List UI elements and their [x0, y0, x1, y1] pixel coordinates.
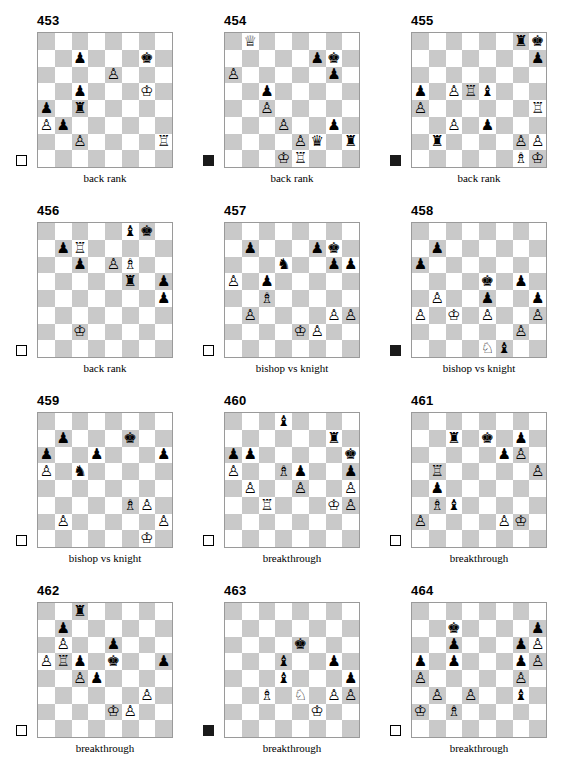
board-square — [72, 720, 89, 737]
board-square: ♟ — [309, 50, 326, 67]
board-square: ♟ — [412, 83, 429, 100]
board-square — [309, 603, 326, 620]
black-pawn-piece: ♟ — [72, 257, 89, 274]
board-square — [309, 514, 326, 531]
board-square — [105, 117, 122, 134]
board-square — [88, 50, 105, 67]
board-square — [155, 33, 172, 50]
board-square: ♟ — [242, 447, 259, 464]
board-square — [105, 603, 122, 620]
board-square: ♙ — [529, 653, 546, 670]
puzzle-theme-caption: bishop vs knight — [37, 552, 173, 565]
board-square — [326, 290, 343, 307]
board-square — [105, 514, 122, 531]
board-square: ♙ — [55, 514, 72, 531]
board-square — [155, 704, 172, 721]
board-square — [155, 670, 172, 687]
board-square — [342, 514, 359, 531]
board-square — [72, 620, 89, 637]
black-king-piece: ♚ — [326, 240, 343, 257]
board-square — [342, 223, 359, 240]
board-square — [55, 497, 72, 514]
board-square — [412, 33, 429, 50]
board-square — [446, 273, 463, 290]
board-square — [88, 514, 105, 531]
board-square — [55, 33, 72, 50]
board-square — [446, 530, 463, 547]
board-square: ♜ — [446, 430, 463, 447]
board-square — [155, 530, 172, 547]
board-square — [242, 637, 259, 654]
white-pawn-piece: ♙ — [105, 67, 122, 84]
board-square — [309, 670, 326, 687]
board-square: ♟ — [326, 257, 343, 274]
board-square — [309, 497, 326, 514]
board-square: ♟ — [55, 620, 72, 637]
board-square — [72, 637, 89, 654]
board-square — [292, 240, 309, 257]
board-square — [429, 720, 446, 737]
board-square — [429, 257, 446, 274]
board-square — [342, 430, 359, 447]
board-square: ♙ — [429, 687, 446, 704]
board-square: ♟ — [429, 240, 446, 257]
black-pawn-piece: ♟ — [513, 637, 530, 654]
board-square — [55, 704, 72, 721]
board-square: ♙ — [529, 637, 546, 654]
board-square — [275, 307, 292, 324]
board-square — [242, 150, 259, 167]
black-pawn-piece: ♟ — [155, 290, 172, 307]
board-square — [462, 324, 479, 341]
board-square — [155, 603, 172, 620]
white-rook-piece: ♖ — [72, 240, 89, 257]
board-square: ♙ — [412, 100, 429, 117]
board-square — [326, 324, 343, 341]
board-square — [513, 307, 530, 324]
board-square — [309, 413, 326, 430]
board-square: ♔ — [275, 150, 292, 167]
board-square — [225, 653, 242, 670]
board-square — [529, 687, 546, 704]
board-square — [309, 273, 326, 290]
board-square — [122, 603, 139, 620]
board-square — [139, 653, 156, 670]
board-square — [446, 514, 463, 531]
board-square — [122, 240, 139, 257]
board-square — [529, 720, 546, 737]
board-square — [326, 463, 343, 480]
board-square — [225, 620, 242, 637]
board-square — [275, 83, 292, 100]
board-square — [496, 100, 513, 117]
board-square: ♟ — [446, 653, 463, 670]
board-square — [446, 447, 463, 464]
puzzle-theme-caption: back rank — [37, 172, 173, 185]
board-square: ♟ — [529, 290, 546, 307]
board-square — [292, 257, 309, 274]
white-pawn-piece: ♙ — [513, 324, 530, 341]
board-square — [155, 50, 172, 67]
board-square: ♗ — [446, 704, 463, 721]
board-square — [105, 687, 122, 704]
white-pawn-piece: ♙ — [242, 480, 259, 497]
board-square — [446, 413, 463, 430]
board-square — [122, 687, 139, 704]
board-square — [342, 67, 359, 84]
board-square — [105, 50, 122, 67]
board-square — [412, 620, 429, 637]
board-square — [55, 324, 72, 341]
white-king-piece: ♔ — [139, 530, 156, 547]
board-square — [462, 413, 479, 430]
board-square: ♙ — [242, 480, 259, 497]
board-square — [446, 290, 463, 307]
board-square — [496, 670, 513, 687]
board-square — [496, 463, 513, 480]
board-square — [259, 480, 276, 497]
board-square — [55, 150, 72, 167]
board-square — [105, 223, 122, 240]
black-rook-piece: ♜ — [342, 134, 359, 151]
board-square — [105, 290, 122, 307]
board-square — [225, 150, 242, 167]
board-square — [225, 117, 242, 134]
board-square — [122, 100, 139, 117]
board-square — [155, 430, 172, 447]
